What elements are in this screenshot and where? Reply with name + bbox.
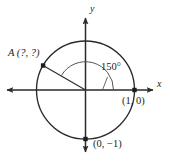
- terminal-ray: [43, 66, 85, 91]
- figure-canvas: [0, 0, 170, 166]
- unit-circle-figure: A (?, ?) 150° x y (1, 0) (0, −1): [0, 0, 170, 166]
- point-marker-a: [41, 63, 45, 67]
- point-0-minus1-label: (0, −1): [93, 139, 122, 150]
- point-marker-1-0: [132, 88, 136, 92]
- point-marker-0-minus1: [83, 137, 87, 141]
- point-a-label: A (?, ?): [8, 48, 40, 59]
- angle-leader-line: [103, 77, 108, 90]
- point-1-0-label: (1, 0): [122, 96, 145, 107]
- y-axis-label: y: [90, 4, 94, 14]
- x-axis-label: x: [157, 79, 161, 89]
- angle-measure-label: 150°: [101, 62, 121, 73]
